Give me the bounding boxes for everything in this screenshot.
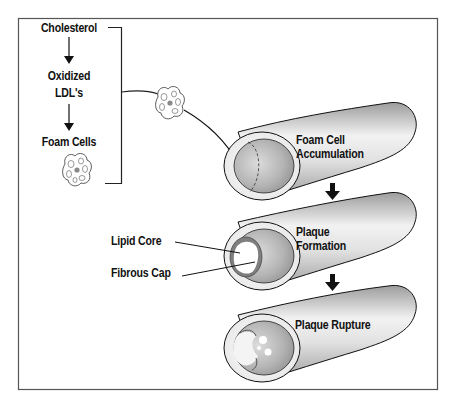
flow-step-oxidized: Oxidized xyxy=(26,69,112,83)
stage-arrow-1 xyxy=(325,183,340,200)
bracket-connector xyxy=(122,91,159,94)
stage-label-foam-cell: Foam Cell xyxy=(296,133,345,147)
foam-cell-icon xyxy=(63,153,92,185)
stage-label-plaque: Plaque xyxy=(296,225,330,239)
flow-step-ldls: LDL's xyxy=(26,86,112,100)
migrating-foam-cell-icon xyxy=(156,86,185,118)
atherosclerosis-diagram: Cholesterol Oxidized LDL's Foam Cells Fo… xyxy=(0,0,454,400)
callout-lipid-core: Lipid Core xyxy=(111,234,161,248)
flow-step-cholesterol: Cholesterol xyxy=(26,21,112,35)
stage-label-plaque-rupture: Plaque Rupture xyxy=(295,318,371,332)
diagram-artwork xyxy=(0,0,454,400)
bracket xyxy=(105,28,122,184)
vessel-plaque-rupture xyxy=(224,285,416,382)
callout-fibrous-cap: Fibrous Cap xyxy=(111,266,171,280)
flow-arrow-1 xyxy=(64,37,74,64)
stage-arrow-2 xyxy=(325,274,340,291)
flow-step-foam-cells: Foam Cells xyxy=(26,135,112,149)
flow-arrow-2 xyxy=(64,104,74,131)
stage-label-formation: Formation xyxy=(296,239,346,253)
stage-label-accumulation: Accumulation xyxy=(296,147,364,161)
